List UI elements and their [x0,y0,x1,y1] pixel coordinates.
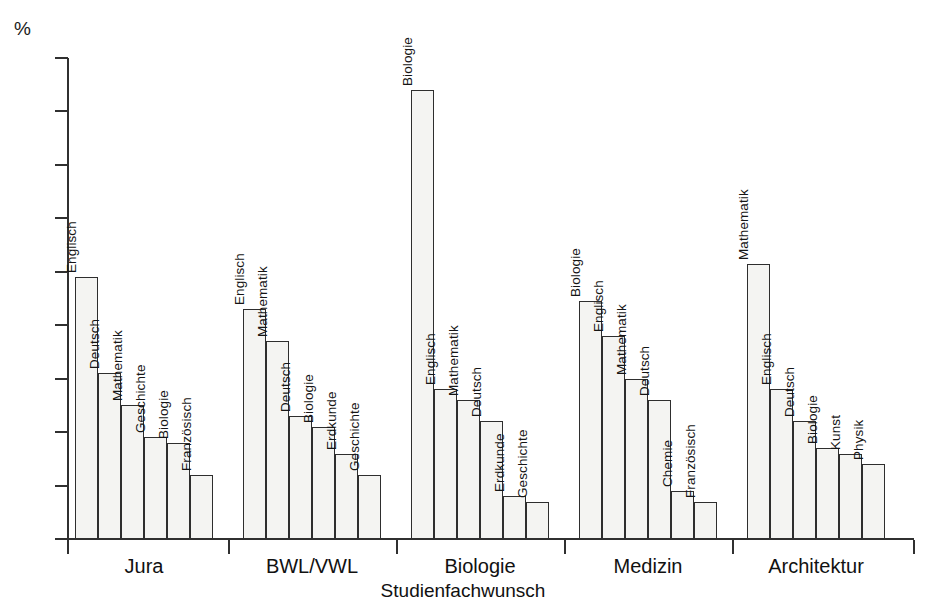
x-axis-separator-tick [564,540,566,554]
bar-label: Geschichte [515,429,530,498]
bar-label: Erdkunde [324,391,339,450]
bar-group-bars: BiologieEnglischMathematikDeutschErdkund… [411,58,549,539]
bar-label: Mathematik [614,304,629,375]
bar-label: Biologie [805,395,820,444]
bar-group-bars: MathematikEnglischDeutschBiologieKunstPh… [747,58,885,539]
bar-item[interactable]: Mathematik [457,58,480,539]
bar-item[interactable]: Biologie [411,58,434,539]
bar-item[interactable]: Deutsch [98,58,121,539]
bar[interactable] [816,448,839,539]
x-axis-group-label: Biologie [411,555,549,578]
y-axis-unit-label: % [14,18,31,40]
bar-item[interactable]: Mathematik [747,58,770,539]
bar-label: Englisch [423,334,438,386]
bar[interactable] [694,502,717,539]
bar[interactable] [747,264,770,539]
bar-label: Geschichte [347,402,362,471]
bar-item[interactable]: Geschichte [358,58,381,539]
bar-label: Mathematik [255,266,270,337]
y-axis-tick-mark [55,431,68,433]
bar-label: Biologie [568,248,583,297]
bar-item[interactable]: Biologie [816,58,839,539]
bar-chart: % 9080706050403020100 EnglischDeutschMat… [0,0,926,609]
bar-label: Englisch [591,280,606,332]
x-axis-group-label: BWL/VWL [243,555,381,578]
x-axis-separator-tick [67,540,69,554]
x-axis-separator-tick [228,540,230,554]
bar-label: Französisch [683,424,698,498]
bar-label: Deutsch [637,346,652,396]
bar[interactable] [625,379,648,539]
bar-label: Französisch [179,397,194,471]
bar-item[interactable]: Englisch [602,58,625,539]
bar-label: Deutsch [782,367,797,417]
bar-item[interactable]: Kunst [839,58,862,539]
bar-label: Erdkunde [492,434,507,493]
bar-item[interactable]: Englisch [434,58,457,539]
bar[interactable] [243,309,266,539]
x-axis-separator-tick [913,540,915,554]
x-axis-group-label: Jura [75,555,213,578]
y-axis-tick-mark [55,110,68,112]
bar-label: Mathematik [110,331,125,402]
y-axis-tick-mark [55,324,68,326]
bar-label: Englisch [64,221,79,273]
bar[interactable] [358,475,381,539]
bar-label: Deutsch [469,367,484,417]
bar-item[interactable]: Mathematik [625,58,648,539]
bar-item[interactable]: Deutsch [793,58,816,539]
bar-item[interactable]: Französisch [190,58,213,539]
bar-label: Biologie [400,37,415,86]
x-axis-title: Studienfachwunsch [0,580,926,602]
bar-item[interactable]: Mathematik [266,58,289,539]
bar-label: Chemie [660,440,675,487]
bar[interactable] [190,475,213,539]
y-axis-tick-mark [55,217,68,219]
bar-item[interactable]: Physik [862,58,885,539]
bar-label: Biologie [301,374,316,423]
bar[interactable] [862,464,885,539]
bar[interactable] [579,301,602,539]
bar-label: Mathematik [446,325,461,396]
x-axis-line [67,538,914,540]
bar-label: Englisch [232,253,247,305]
x-axis-separator-tick [732,540,734,554]
bar-label: Physik [851,420,866,460]
bar-label: Biologie [156,390,171,439]
bar-label: Mathematik [736,189,751,260]
bar[interactable] [457,400,480,539]
y-axis-tick-mark [55,485,68,487]
bar[interactable] [289,416,312,539]
bar[interactable] [839,454,862,540]
x-axis-group-label: Medizin [579,555,717,578]
bar-label: Deutsch [278,362,293,412]
bar-group-bars: EnglischDeutschMathematikGeschichteBiolo… [75,58,213,539]
bar-item[interactable]: Englisch [770,58,793,539]
bar-item[interactable]: Biologie [312,58,335,539]
bar-label: Englisch [759,334,774,386]
bar-item[interactable]: Deutsch [289,58,312,539]
bar-label: Kunst [828,414,843,449]
bar-item[interactable]: Französisch [694,58,717,539]
bar[interactable] [671,491,694,539]
x-axis-separator-tick [396,540,398,554]
bar-group-bars: BiologieEnglischMathematikDeutschChemieF… [579,58,717,539]
bar-label: Geschichte [133,365,148,434]
bar[interactable] [503,496,526,539]
bar[interactable] [526,502,549,539]
bar-label: Deutsch [87,319,102,369]
bar-item[interactable]: Geschichte [144,58,167,539]
y-axis-tick-mark [55,164,68,166]
bar[interactable] [411,90,434,539]
bar-group-bars: EnglischMathematikDeutschBiologieErdkund… [243,58,381,539]
bar-item[interactable]: Mathematik [121,58,144,539]
bar[interactable] [75,277,98,539]
plot-area: EnglischDeutschMathematikGeschichteBiolo… [69,58,914,539]
bar[interactable] [434,389,457,539]
bar-item[interactable]: Englisch [75,58,98,539]
x-axis-group-label: Architektur [747,555,885,578]
y-axis-tick-mark [55,57,68,59]
bar-item[interactable]: Geschichte [526,58,549,539]
bar[interactable] [144,437,167,539]
y-axis-tick-mark [55,378,68,380]
